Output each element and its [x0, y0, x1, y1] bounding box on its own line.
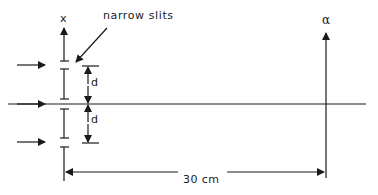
distance-label: 30 cm	[181, 174, 221, 185]
screen-axis-label: α	[322, 14, 330, 26]
double-slit-diagram	[0, 0, 378, 195]
slits-pointer-arrow	[76, 28, 107, 62]
slits-label: narrow slits	[103, 10, 174, 21]
separation-label-upper: d	[91, 77, 98, 88]
x-axis-label: x	[60, 13, 67, 24]
separation-label-lower: d	[91, 114, 98, 125]
